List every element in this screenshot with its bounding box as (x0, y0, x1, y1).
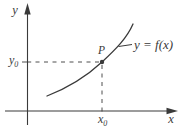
curve-equation-label: y = f(x) (132, 37, 173, 52)
curve-label-leader-line (119, 45, 133, 47)
y-axis-arrowhead (24, 3, 30, 15)
x0-label-sub: 0 (103, 119, 107, 128)
y-axis-label: y (10, 3, 18, 17)
x0-label: x0 (97, 112, 107, 128)
point-p-marker (100, 60, 104, 64)
function-graph-figure: y x y0 x0 P y = f(x) (0, 0, 185, 130)
x-axis-label: x (167, 112, 174, 126)
function-graph-canvas: y x y0 x0 P y = f(x) (0, 0, 185, 130)
y0-label: y0 (8, 53, 18, 69)
function-curve (47, 24, 133, 96)
y0-label-sub: 0 (14, 60, 18, 69)
point-p-label: P (97, 44, 105, 56)
